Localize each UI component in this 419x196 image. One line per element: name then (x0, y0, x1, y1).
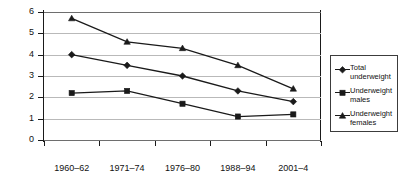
y-tick-2 (38, 97, 44, 98)
x-tick (266, 141, 267, 146)
x-tick (210, 141, 211, 146)
y-tick-label: 1 (4, 114, 34, 123)
legend-label: Totalunderweight (350, 64, 391, 81)
legend-item-1[interactable]: Totalunderweight (335, 64, 397, 81)
legend-item-2[interactable]: Underweightmales (335, 87, 397, 104)
gridline-1 (44, 119, 321, 120)
legend-diamond-marker-icon (335, 65, 350, 74)
y-tick-1 (38, 119, 44, 120)
x-axis-label: 2001–4 (258, 163, 328, 173)
x-tick (99, 141, 100, 146)
gridline-4 (44, 55, 321, 56)
legend-triangle-marker-icon (335, 111, 350, 120)
gridline-3 (44, 76, 321, 77)
y-tick-label: 0 (4, 135, 34, 144)
legend-label: Underweightmales (350, 87, 392, 104)
y-tick-label: 6 (4, 7, 34, 16)
y-tick-label: 2 (4, 92, 34, 101)
legend-label-line2: females (350, 119, 392, 128)
x-tick (44, 141, 45, 146)
x-tick (155, 141, 156, 146)
y-tick-4 (38, 55, 44, 56)
y-tick-5 (38, 33, 44, 34)
legend-label-line2: underweight (350, 73, 391, 82)
chart-legend: TotalunderweightUnderweightmalesUnderwei… (330, 55, 398, 132)
plot-area (44, 12, 321, 140)
y-tick-label: 3 (4, 71, 34, 80)
gridline-5 (44, 33, 321, 34)
y-tick-6 (38, 12, 44, 13)
x-tick (321, 141, 322, 146)
legend-item-3[interactable]: Underweightfemales (335, 110, 397, 127)
y-tick-3 (38, 76, 44, 77)
legend-label: Underweightfemales (350, 110, 392, 127)
legend-label-line2: males (350, 96, 392, 105)
chart-figure: 0123456 1960–621971–741976–801988–942001… (0, 0, 419, 196)
y-tick-label: 5 (4, 28, 34, 37)
y-tick-label: 4 (4, 50, 34, 59)
gridline-0 (44, 140, 321, 141)
gridline-2 (44, 97, 321, 98)
gridline-6 (44, 12, 321, 13)
legend-square-marker-icon (335, 88, 350, 97)
